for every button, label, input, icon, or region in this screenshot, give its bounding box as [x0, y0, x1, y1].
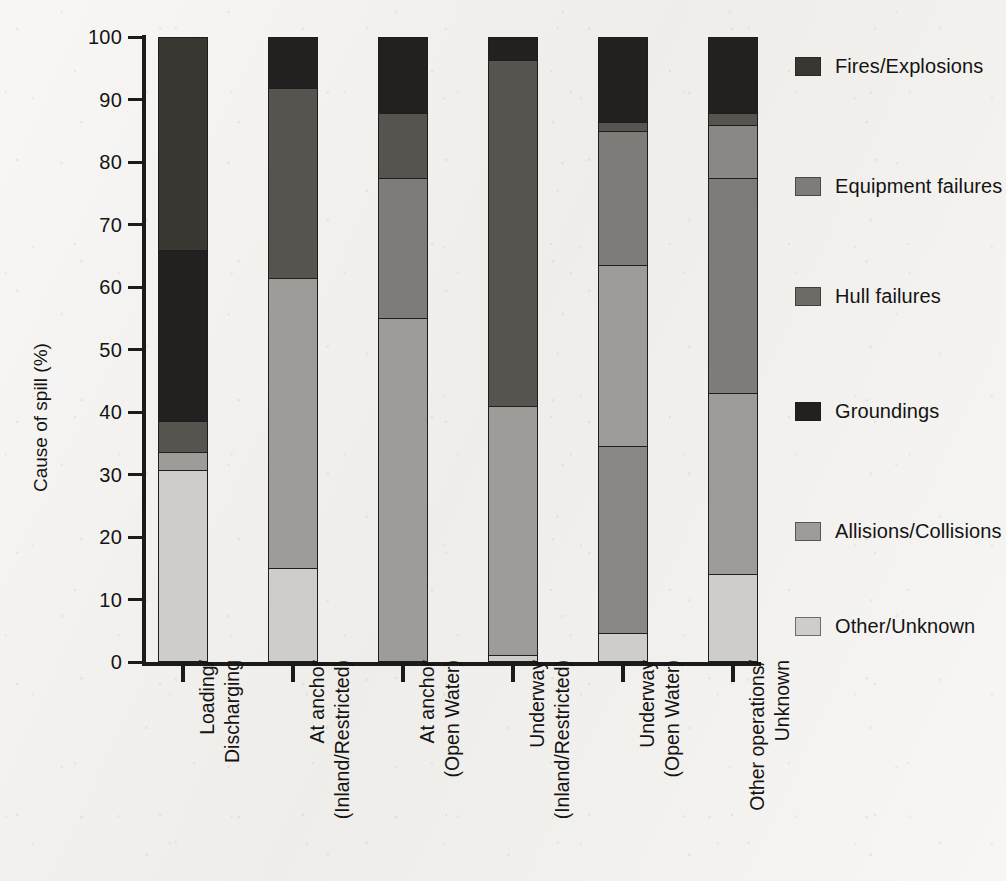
bar-segment[interactable] — [599, 131, 647, 265]
y-tick-90 — [128, 98, 143, 101]
x-axis-label-line1: At anchor — [416, 660, 438, 743]
x-tick-3 — [511, 666, 515, 682]
legend-label: Hull failures — [835, 285, 941, 308]
bar-segment[interactable] — [379, 178, 427, 318]
y-tick-40 — [128, 411, 143, 414]
y-tick-70 — [128, 223, 143, 226]
x-axis-label-line2: (Inland/Restricted) — [550, 660, 575, 875]
x-axis-label: At anchor(Open Water) — [415, 660, 465, 875]
stacked-bar[interactable] — [598, 37, 648, 662]
legend-label: Groundings — [835, 400, 939, 423]
bar-segment[interactable] — [709, 178, 757, 393]
x-tick-2 — [401, 666, 405, 682]
y-tick-100 — [128, 36, 143, 39]
y-tick-label-30: 30 — [99, 463, 122, 486]
legend-label: Equipment failures — [835, 175, 1002, 198]
x-axis-label: At anchor(Inland/Restricted) — [305, 660, 355, 875]
stacked-bar[interactable] — [268, 37, 318, 662]
x-axis-label-line1: Other operations/ — [746, 660, 768, 811]
x-axis-label-line1: Loading/ — [196, 660, 218, 735]
y-tick-30 — [128, 473, 143, 476]
legend-swatch-icon — [795, 522, 821, 541]
legend-item[interactable]: Other/Unknown — [795, 615, 975, 638]
legend-item[interactable]: Fires/Explosions — [795, 55, 983, 78]
bar-segment[interactable] — [709, 125, 757, 178]
y-tick-label-80: 80 — [99, 151, 122, 174]
legend-label: Fires/Explosions — [835, 55, 983, 78]
stacked-bar[interactable] — [158, 37, 208, 662]
x-axis-label-line2: Unknown — [770, 660, 795, 875]
bar-segment[interactable] — [709, 38, 757, 113]
bar-segment[interactable] — [269, 38, 317, 88]
x-axis-label-line2: (Inland/Restricted) — [330, 660, 355, 875]
x-axis-label-line1: Underway — [526, 660, 548, 748]
bar-segment[interactable] — [379, 318, 427, 661]
bar-segment[interactable] — [599, 122, 647, 131]
legend-item[interactable]: Equipment failures — [795, 175, 1002, 198]
bar-segment[interactable] — [379, 113, 427, 178]
y-tick-80 — [128, 161, 143, 164]
legend-swatch-icon — [795, 402, 821, 421]
y-tick-0 — [128, 661, 143, 664]
chart-canvas: Cause of spill (%) 010203040506070809010… — [0, 0, 1006, 881]
x-axis-label-line2: (Open Water) — [440, 660, 465, 875]
x-axis-label-line2: Discharging — [220, 660, 245, 875]
bar-segment[interactable] — [709, 113, 757, 125]
legend-swatch-icon — [795, 57, 821, 76]
y-tick-label-40: 40 — [99, 401, 122, 424]
bar-segment[interactable] — [709, 393, 757, 574]
legend-item[interactable]: Allisions/Collisions — [795, 520, 1002, 543]
y-tick-label-0: 0 — [111, 651, 122, 674]
bar-segment[interactable] — [159, 470, 207, 661]
bar-segment[interactable] — [599, 38, 647, 122]
x-axis-label: Other operations/Unknown — [745, 660, 795, 875]
y-tick-20 — [128, 536, 143, 539]
x-tick-0 — [181, 666, 185, 682]
legend-swatch-icon — [795, 617, 821, 636]
x-axis-label: Underway(Open Water) — [635, 660, 685, 875]
plot-area: 0102030405060708090100 — [158, 37, 757, 662]
y-tick-50 — [128, 348, 143, 351]
bar-segment[interactable] — [599, 446, 647, 633]
x-tick-5 — [731, 666, 735, 682]
y-tick-label-10: 10 — [99, 588, 122, 611]
bar-segment[interactable] — [159, 452, 207, 469]
x-axis-label-line1: At anchor — [306, 660, 328, 743]
bar-segment[interactable] — [709, 574, 757, 661]
y-tick-label-20: 20 — [99, 526, 122, 549]
bar-segment[interactable] — [379, 38, 427, 113]
stacked-bar[interactable] — [708, 37, 758, 662]
bar-segment[interactable] — [159, 38, 207, 250]
legend-item[interactable]: Hull failures — [795, 285, 941, 308]
y-tick-label-60: 60 — [99, 276, 122, 299]
y-tick-label-100: 100 — [88, 26, 122, 49]
chart-legend: Fires/ExplosionsEquipment failuresHull f… — [795, 37, 995, 637]
legend-label: Other/Unknown — [835, 615, 975, 638]
y-axis-title: Cause of spill (%) — [30, 262, 52, 492]
x-axis-label: Loading/Discharging — [195, 660, 245, 875]
legend-swatch-icon — [795, 177, 821, 196]
bar-segment[interactable] — [269, 88, 317, 278]
stacked-bar[interactable] — [488, 37, 538, 662]
bar-segment[interactable] — [489, 406, 537, 655]
bar-segment[interactable] — [489, 60, 537, 406]
y-tick-label-90: 90 — [99, 88, 122, 111]
bar-segment[interactable] — [599, 633, 647, 661]
legend-item[interactable]: Groundings — [795, 400, 939, 423]
y-tick-10 — [128, 598, 143, 601]
x-axis-label: Underway(Inland/Restricted) — [525, 660, 575, 875]
x-axis-label-line2: (Open Water) — [660, 660, 685, 875]
bar-segment[interactable] — [599, 265, 647, 446]
x-tick-1 — [291, 666, 295, 682]
bar-segment[interactable] — [269, 568, 317, 661]
bar-segment[interactable] — [159, 250, 207, 421]
x-axis-label-line1: Underway — [636, 660, 658, 748]
y-tick-60 — [128, 286, 143, 289]
y-tick-label-50: 50 — [99, 338, 122, 361]
stacked-bar[interactable] — [378, 37, 428, 662]
legend-label: Allisions/Collisions — [835, 520, 1002, 543]
bar-segment[interactable] — [269, 278, 317, 568]
legend-swatch-icon — [795, 287, 821, 306]
bar-segment[interactable] — [159, 421, 207, 452]
bar-segment[interactable] — [489, 38, 537, 60]
